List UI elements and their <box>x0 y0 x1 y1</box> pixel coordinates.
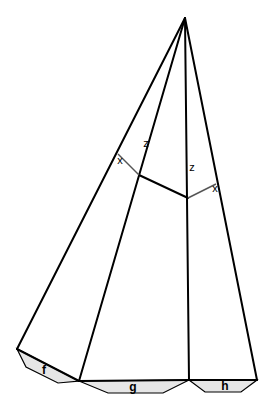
edge-apex-g-h <box>185 18 189 380</box>
section-middle <box>139 175 188 198</box>
label-z-right: z <box>189 161 195 173</box>
edge-apex-right <box>185 18 257 380</box>
pyramid-net-diagram: x z z x f g h <box>0 0 274 413</box>
edge-apex-left <box>17 18 185 349</box>
edge-apex-f-g <box>79 18 185 381</box>
label-x-right: x <box>212 182 218 194</box>
tab-label-h: h <box>221 379 228 393</box>
label-x-left: x <box>117 154 123 166</box>
label-z-left: z <box>143 137 149 149</box>
tab-label-g: g <box>129 380 136 394</box>
